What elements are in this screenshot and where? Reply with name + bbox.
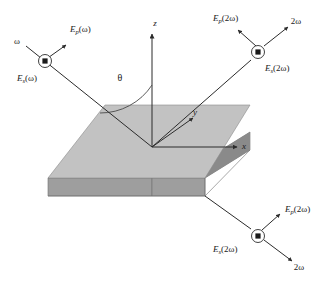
x-axis-label: x (241, 141, 246, 151)
reflected-p-field-label: Ep(2ω) (212, 13, 238, 24)
reflected-frequency-label: 2ω (291, 16, 302, 26)
shg-geometry-figure: z y x θ ω Ep(ω) Es(ω) (0, 0, 325, 284)
transmitted-frequency-label: 2ω (294, 262, 305, 272)
incident-p-field-label: Ep(ω) (69, 24, 91, 35)
incident-p-field-arg: (ω) (79, 24, 91, 34)
incident-s-field-label: Es(ω) (16, 73, 37, 84)
transmitted-s-field-label: Es(2ω) (212, 244, 237, 255)
incident-s-polarization-dot (42, 58, 47, 63)
incident-s-field-arg: (ω) (25, 73, 37, 83)
svg-text:Es(2ω): Es(2ω) (264, 63, 289, 74)
svg-text:Es(ω): Es(ω) (16, 73, 37, 84)
svg-text:Ep(2ω): Ep(2ω) (284, 204, 310, 215)
svg-text:Ep(ω): Ep(ω) (69, 24, 91, 35)
transmitted-beam-ray-upper (205, 196, 251, 229)
incident-frequency-label: ω (14, 36, 20, 46)
reflected-p-field-arg: (2ω) (222, 13, 238, 23)
transmitted-s-field-arg: (2ω) (221, 244, 237, 254)
svg-text:Ep(2ω): Ep(2ω) (212, 13, 238, 24)
z-axis-label: z (152, 18, 157, 28)
reflected-beam-ray-upper (264, 27, 288, 46)
reflected-s-field-label: Es(2ω) (264, 63, 289, 74)
reflected-s-polarization-dot (255, 49, 260, 54)
reflected-p-arrow (238, 30, 256, 46)
slab-front-face-right (152, 178, 205, 196)
svg-text:Es(2ω): Es(2ω) (212, 244, 237, 255)
transmitted-p-arrow (262, 214, 280, 230)
transmitted-p-field-label: Ep(2ω) (284, 204, 310, 215)
transmitted-beam-ray-lower (264, 240, 292, 261)
sample-slab (48, 105, 250, 196)
theta-label: θ (118, 72, 123, 83)
reflected-s-field-arg: (2ω) (273, 63, 289, 73)
transmitted-p-field-arg: (2ω) (294, 204, 310, 214)
diagram-canvas: z y x θ ω Ep(ω) Es(ω) (0, 0, 325, 284)
slab-front-face-left (48, 178, 152, 196)
transmitted-s-polarization-dot (255, 233, 260, 238)
